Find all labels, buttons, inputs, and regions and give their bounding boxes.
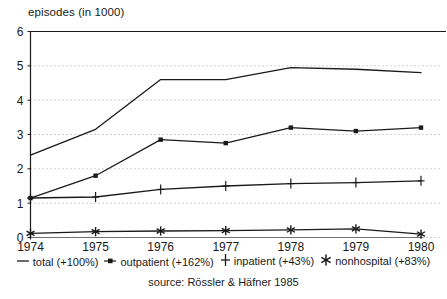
data-point-marker [158,137,162,141]
x-tick-label: 1975 [82,240,109,254]
x-tick-label: 1979 [343,240,370,254]
data-point-marker [222,181,229,191]
legend-item-total[interactable]: total (+100%) [17,255,99,268]
data-point-marker [224,141,228,145]
legend-marker-asterisk [320,254,332,268]
x-tick-labels: 1974197519761977197819791980 [17,240,435,254]
data-point-marker [419,125,423,129]
legend-item-label: nonhospital (+83%) [335,255,430,267]
series-inpatient [27,176,425,203]
data-point-marker [287,179,294,189]
gridlines [31,66,441,238]
y-tick-label: 2 [17,162,24,176]
x-tick-label: 1974 [17,240,44,254]
data-point-marker [289,125,293,129]
legend-marker-dash [17,256,30,268]
x-tick-label: 1977 [212,240,239,254]
legend-item-label: total (+100%) [33,256,99,268]
data-point-marker [354,129,358,133]
y-tick-label: 4 [17,94,24,108]
x-tick-label: 1978 [277,240,304,254]
data-point-marker [92,192,99,202]
chart-container: episodes (in 1000) 0123456 1974197519761… [0,0,447,299]
y-tick-labels: 0123456 [17,25,24,245]
x-tick-label: 1980 [408,240,435,254]
legend-item-inpatient[interactable]: inpatient (+43%) [220,254,314,268]
series-nonhospital [27,224,425,238]
legend-item-nonhospital[interactable]: nonhospital (+83%) [320,254,430,268]
x-tick-label: 1976 [147,240,174,254]
source-note: source: Rössler & Häfner 1985 [0,276,447,288]
data-series-group [27,68,425,239]
chart-legend: total (+100%)outpatient (+162%)inpatient… [0,254,447,268]
y-tick-label: 1 [17,197,24,211]
data-point-marker [157,184,164,194]
data-point-marker [352,178,359,188]
legend-marker-square [104,256,117,268]
data-point-marker [93,174,97,178]
data-point-marker [418,176,425,186]
legend-item-label: outpatient (+162%) [120,256,213,268]
axis-lines [28,32,447,240]
y-tick-label: 3 [17,128,24,142]
y-tick-label: 5 [17,59,24,73]
data-point-marker [27,193,34,203]
y-tick-label: 6 [17,25,24,39]
legend-marker-plus [220,254,231,268]
legend-item-outpatient[interactable]: outpatient (+162%) [104,255,213,268]
legend-item-label: inpatient (+43%) [234,255,314,267]
